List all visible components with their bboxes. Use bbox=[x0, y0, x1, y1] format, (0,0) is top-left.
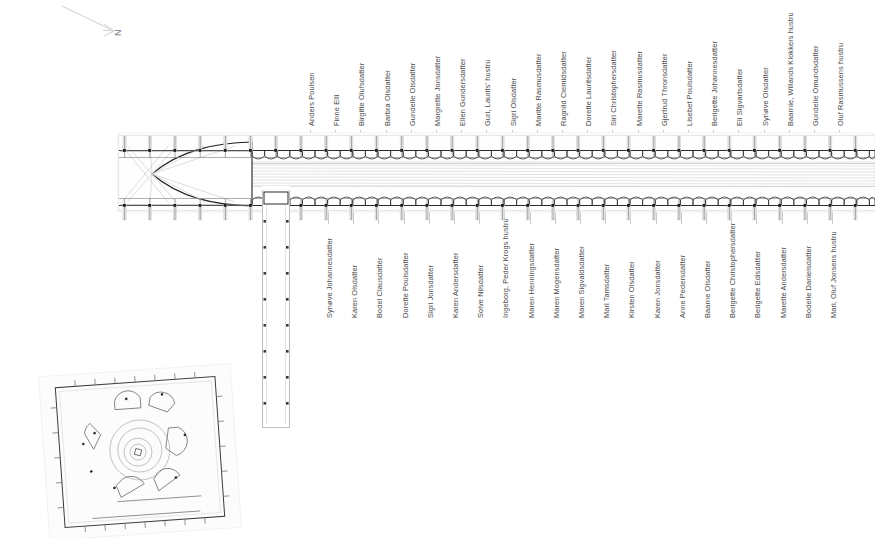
transept-post-node bbox=[286, 246, 289, 249]
transept-post-node bbox=[286, 402, 289, 405]
post-node bbox=[602, 204, 605, 207]
post-node bbox=[199, 149, 202, 152]
post-node bbox=[551, 149, 554, 152]
post-node bbox=[148, 149, 151, 152]
post-node bbox=[627, 204, 630, 207]
post-node bbox=[400, 149, 403, 152]
floor-plan-figure: N Anders PoulsenFinne ElliBirgitte Olufs… bbox=[0, 0, 875, 538]
transept-post-node bbox=[286, 376, 289, 379]
transept-post-node bbox=[264, 376, 267, 379]
post-node bbox=[173, 204, 176, 207]
inset-plan bbox=[39, 364, 242, 538]
post-node bbox=[803, 204, 806, 207]
post-node bbox=[123, 149, 126, 152]
post-node bbox=[400, 204, 403, 207]
post-node bbox=[829, 149, 832, 152]
nave-plan bbox=[0, 0, 875, 538]
post-node bbox=[451, 204, 454, 207]
post-node bbox=[123, 204, 126, 207]
post-node bbox=[753, 149, 756, 152]
post-node bbox=[501, 149, 504, 152]
post-node bbox=[325, 204, 328, 207]
transept-post-node bbox=[286, 350, 289, 353]
post-node bbox=[148, 204, 151, 207]
post-node bbox=[753, 204, 756, 207]
post-node bbox=[173, 149, 176, 152]
post-node bbox=[526, 204, 529, 207]
post-node bbox=[299, 149, 302, 152]
post-node bbox=[803, 149, 806, 152]
post-node bbox=[728, 149, 731, 152]
post-node bbox=[577, 149, 580, 152]
post-node bbox=[526, 149, 529, 152]
post-node bbox=[249, 204, 252, 207]
transept-post-node bbox=[286, 220, 289, 223]
post-node bbox=[224, 149, 227, 152]
post-node bbox=[728, 204, 731, 207]
post-node bbox=[627, 149, 630, 152]
post-node bbox=[325, 149, 328, 152]
post-node bbox=[501, 204, 504, 207]
post-node bbox=[602, 149, 605, 152]
post-node bbox=[199, 204, 202, 207]
post-node bbox=[274, 149, 277, 152]
post-node bbox=[350, 204, 353, 207]
post-node bbox=[551, 204, 554, 207]
post-node bbox=[703, 204, 706, 207]
post-node bbox=[778, 204, 781, 207]
post-node bbox=[677, 204, 680, 207]
post-node bbox=[476, 204, 479, 207]
post-node bbox=[677, 149, 680, 152]
post-node bbox=[854, 149, 857, 152]
transept-post-node bbox=[264, 298, 267, 301]
post-node bbox=[652, 204, 655, 207]
post-node bbox=[451, 149, 454, 152]
post-node bbox=[703, 149, 706, 152]
transept-post-node bbox=[286, 298, 289, 301]
post-node bbox=[299, 204, 302, 207]
transept-post-node bbox=[286, 272, 289, 275]
transept-post-node bbox=[264, 350, 267, 353]
post-node bbox=[425, 204, 428, 207]
post-node bbox=[249, 149, 252, 152]
post-node bbox=[476, 149, 479, 152]
post-node bbox=[224, 204, 227, 207]
transept-post-node bbox=[286, 324, 289, 327]
post-node bbox=[829, 204, 832, 207]
post-node bbox=[577, 204, 580, 207]
post-node bbox=[854, 204, 857, 207]
transept-post-node bbox=[264, 220, 267, 223]
post-node bbox=[652, 149, 655, 152]
transept-post-node bbox=[264, 324, 267, 327]
post-node bbox=[425, 149, 428, 152]
transept-post-node bbox=[264, 246, 267, 249]
post-node bbox=[375, 204, 378, 207]
post-node bbox=[778, 149, 781, 152]
transept-post-node bbox=[264, 272, 267, 275]
transept-post-node bbox=[264, 402, 267, 405]
post-node bbox=[350, 149, 353, 152]
post-node bbox=[375, 149, 378, 152]
